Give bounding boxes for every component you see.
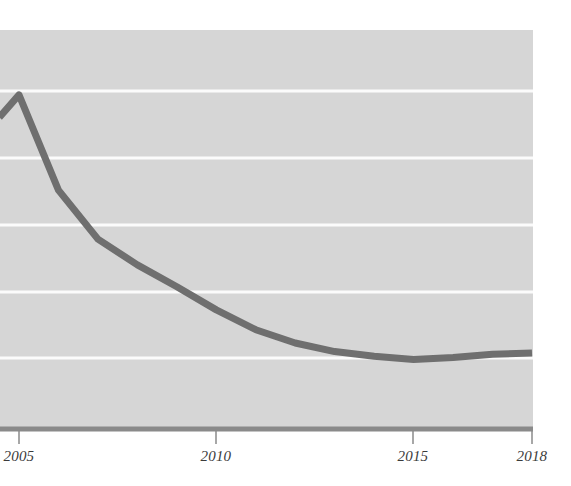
x-axis-tick-label-2018: 2018 <box>517 448 548 465</box>
x-axis-tick-marks <box>19 431 532 444</box>
x-axis-tick-label-2010: 2010 <box>201 448 232 465</box>
chart-container: 2005201020152018 <box>0 0 571 486</box>
line-chart-canvas <box>0 0 571 486</box>
x-axis-tick-label-2005: 2005 <box>4 448 35 465</box>
x-axis-tick-label-2015: 2015 <box>398 448 429 465</box>
